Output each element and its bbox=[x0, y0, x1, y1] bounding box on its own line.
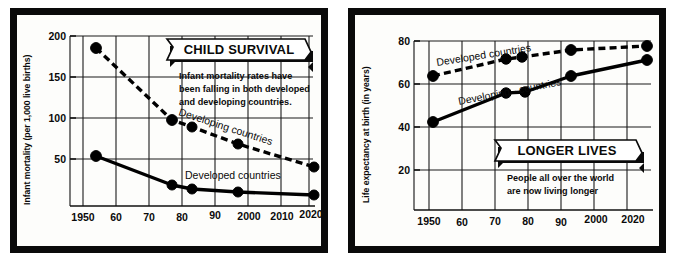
right-y-axis-title: Life expectancy at birth (in years) bbox=[361, 66, 371, 203]
right-ytick-60: 60 bbox=[398, 78, 410, 90]
left-y-axis-title: Infant mortality (per 1,000 live births) bbox=[22, 54, 32, 205]
left-xtick-60: 60 bbox=[110, 211, 122, 223]
right-xtick-2020: 2020 bbox=[621, 213, 645, 225]
left-xtick-2020: 2020 bbox=[299, 208, 321, 220]
right-xtick-70: 70 bbox=[489, 215, 501, 227]
chart-panel-child-survival: Infant mortality (per 1,000 live births)… bbox=[10, 8, 328, 253]
left-xtick-80: 80 bbox=[176, 211, 188, 223]
left-xtick-70: 70 bbox=[143, 211, 155, 223]
right-vertical-gridlines bbox=[429, 41, 627, 210]
left-xtick-90: 90 bbox=[209, 209, 221, 221]
left-ytick-200: 200 bbox=[48, 30, 66, 42]
left-caption-line-3: and developing countries. bbox=[179, 97, 292, 107]
right-ytick-80: 80 bbox=[398, 35, 410, 47]
left-ytick-50: 50 bbox=[54, 153, 66, 165]
right-banner-title: LONGER LIVES bbox=[517, 143, 616, 158]
right-y-tick-marks bbox=[414, 41, 420, 170]
left-ytick-100: 100 bbox=[48, 112, 66, 124]
right-xtick-2000: 2000 bbox=[584, 213, 608, 225]
right-label-developing-countries: Developing - countries bbox=[457, 75, 562, 107]
chart-panel-left-inner: Infant mortality (per 1,000 live births)… bbox=[17, 15, 321, 246]
left-caption-line-2: been falling in both developed bbox=[179, 84, 310, 94]
child-survival-chart-svg: Infant mortality (per 1,000 live births)… bbox=[17, 15, 321, 246]
left-xtick-2010: 2010 bbox=[270, 210, 294, 222]
right-xtick-60: 60 bbox=[456, 216, 468, 228]
right-ytick-40: 40 bbox=[398, 121, 410, 133]
chart-panel-longer-lives: Life expectancy at birth (in years) 80 6… bbox=[348, 8, 666, 253]
left-label-developed-countries: Developed countries bbox=[185, 169, 281, 181]
left-series-developing-markers bbox=[91, 43, 319, 172]
chart-panel-right-inner: Life expectancy at birth (in years) 80 6… bbox=[355, 15, 659, 246]
right-label-developed-countries: Developed countries bbox=[435, 41, 531, 68]
left-caption-line-1: Infant mortality rates have bbox=[179, 71, 292, 81]
left-banner: CHILD SURVIVAL bbox=[167, 39, 313, 72]
right-banner: LONGER LIVES bbox=[495, 140, 644, 173]
left-banner-title: CHILD SURVIVAL bbox=[184, 42, 295, 57]
right-xtick-80: 80 bbox=[522, 215, 534, 227]
left-y-tick-marks bbox=[70, 36, 76, 159]
right-ytick-20: 20 bbox=[398, 164, 410, 176]
longer-lives-chart-svg: Life expectancy at birth (in years) 80 6… bbox=[355, 15, 659, 246]
left-xtick-2000: 2000 bbox=[237, 210, 261, 222]
infographic-sheet: Infant mortality (per 1,000 live births)… bbox=[0, 0, 676, 263]
right-xtick-90: 90 bbox=[555, 216, 567, 228]
right-caption-line-1: People all over the world bbox=[507, 173, 614, 183]
right-caption-line-2: are now living longer bbox=[507, 186, 598, 196]
right-xtick-1950: 1950 bbox=[417, 215, 441, 227]
left-ytick-150: 150 bbox=[48, 71, 66, 83]
left-xtick-1950: 1950 bbox=[71, 211, 95, 223]
